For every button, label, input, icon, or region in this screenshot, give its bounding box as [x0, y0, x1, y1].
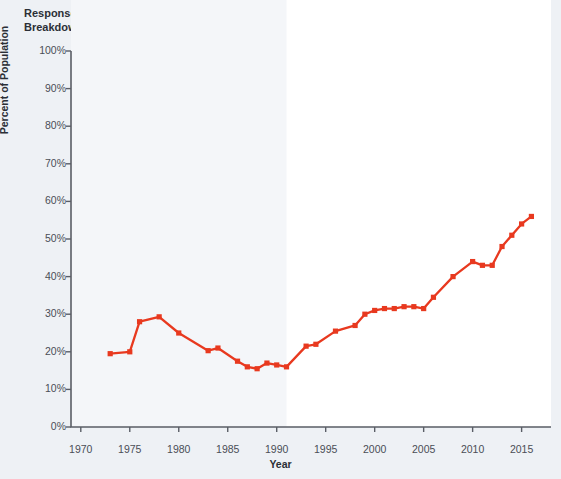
series-point-total	[255, 366, 260, 371]
series-point-total	[264, 360, 269, 365]
series-point-total	[519, 221, 524, 226]
series-point-total	[157, 314, 162, 319]
series-point-total	[284, 364, 289, 369]
series-point-total	[362, 312, 367, 317]
series-point-total	[392, 306, 397, 311]
series-point-total	[470, 259, 475, 264]
series-point-total	[206, 348, 211, 353]
series-point-total	[509, 233, 514, 238]
series-point-total	[274, 362, 279, 367]
series-point-total	[480, 263, 485, 268]
series-point-total	[401, 304, 406, 309]
series-point-total	[215, 345, 220, 350]
series-point-total	[450, 274, 455, 279]
series-point-total	[352, 323, 357, 328]
series-point-total	[372, 308, 377, 313]
series-point-total	[137, 319, 142, 324]
series-point-total	[529, 214, 534, 219]
series-point-total	[127, 349, 132, 354]
series-point-total	[411, 304, 416, 309]
series-point-total	[176, 330, 181, 335]
series-point-total	[490, 263, 495, 268]
line-chart-plot	[0, 0, 561, 479]
series-point-total	[421, 306, 426, 311]
series-point-total	[431, 295, 436, 300]
series-point-total	[382, 306, 387, 311]
series-point-total	[245, 364, 250, 369]
series-point-total	[333, 329, 338, 334]
series-point-total	[235, 359, 240, 364]
series-point-total	[108, 351, 113, 356]
plot-band-left	[71, 0, 287, 427]
series-point-total	[313, 342, 318, 347]
series-point-total	[304, 344, 309, 349]
series-point-total	[499, 244, 504, 249]
